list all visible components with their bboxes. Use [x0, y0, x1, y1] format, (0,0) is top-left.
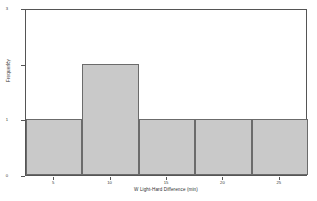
x-tick-label: 20 — [207, 181, 237, 185]
x-tick-label: 5 — [38, 181, 68, 185]
histogram-bar — [26, 119, 82, 175]
histogram-screenshot: 0123 510152025 Frequency W Light-Hard Di… — [0, 0, 317, 201]
x-tick-label: 15 — [151, 181, 181, 185]
x-tick-label: 25 — [264, 181, 294, 185]
x-axis-title: W Light-Hard Difference (min) — [25, 187, 307, 192]
histogram-bar — [195, 119, 251, 175]
y-tick-label: 0 — [6, 174, 8, 178]
histogram-bar — [252, 119, 308, 175]
y-axis-title: Frequency — [6, 49, 11, 93]
bars-layer — [26, 10, 306, 175]
y-tick-mark — [21, 9, 25, 10]
histogram-bar — [139, 119, 195, 175]
plot-area — [25, 9, 307, 176]
histogram-bar — [82, 64, 138, 175]
y-tick-mark — [21, 65, 25, 66]
x-tick-label: 10 — [95, 181, 125, 185]
y-tick-mark — [21, 176, 25, 177]
y-tick-mark — [21, 120, 25, 121]
y-tick-label: 3 — [6, 7, 8, 11]
y-tick-label: 1 — [6, 118, 8, 122]
